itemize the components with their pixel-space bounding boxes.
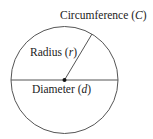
circumference-label: Circumference (C) [60, 10, 147, 22]
diameter-symbol: d [82, 83, 88, 95]
radius-text: Radius [30, 46, 62, 58]
radius-symbol: r [69, 46, 73, 58]
diameter-label: Diameter (d) [32, 84, 91, 96]
diameter-text: Diameter [32, 83, 75, 95]
center-point [63, 78, 67, 82]
radius-label: Radius (r) [30, 47, 77, 59]
circumference-symbol: C [135, 9, 143, 21]
circumference-text: Circumference [60, 9, 128, 21]
